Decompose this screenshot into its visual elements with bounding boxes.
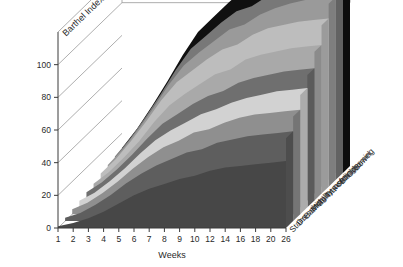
x-tick-label: 14 xyxy=(220,234,230,244)
x-tick-label: 9 xyxy=(177,234,182,244)
x-tick-label: 4 xyxy=(101,234,106,244)
x-tick-label: 5 xyxy=(116,234,121,244)
ribbon-side-face xyxy=(322,18,329,193)
y-tick-label: 60 xyxy=(42,125,52,135)
ribbon-side-face xyxy=(314,45,321,201)
x-tick-label: 7 xyxy=(147,234,152,244)
y-tick-label: 80 xyxy=(42,92,52,102)
x-tick-label: 2 xyxy=(71,234,76,244)
x-tick-label: 12 xyxy=(205,234,215,244)
x-tick-label: 10 xyxy=(190,234,200,244)
ribbon-side-face xyxy=(329,0,336,187)
x-tick-label: 16 xyxy=(236,234,246,244)
ribbon-side-face xyxy=(293,110,300,221)
x-tick-label: 8 xyxy=(162,234,167,244)
x-tick-label: 3 xyxy=(86,234,91,244)
x-tick-label: 6 xyxy=(132,234,137,244)
x-axis-title: Weeks xyxy=(158,250,186,260)
ribbon-side-face xyxy=(336,0,343,180)
x-tick-label: 20 xyxy=(266,234,276,244)
y-tick-label: 100 xyxy=(37,60,51,70)
y-tick-label: 20 xyxy=(42,190,52,200)
y-tick-label: 0 xyxy=(46,223,51,233)
x-tick-label: 18 xyxy=(251,234,261,244)
ribbon-side-face xyxy=(286,131,293,228)
chart-figure: 020406080100 12345678910121416182026 Sta… xyxy=(0,0,403,267)
ribbon-side-face xyxy=(307,68,314,207)
ribbon-side-face xyxy=(300,88,307,214)
y-tick-label: 40 xyxy=(42,158,52,168)
ribbon-side-face xyxy=(343,0,350,173)
x-tick-label: 1 xyxy=(56,234,61,244)
x-tick-label: 26 xyxy=(281,234,291,244)
chart-canvas: 020406080100 12345678910121416182026 Sta… xyxy=(0,0,403,267)
